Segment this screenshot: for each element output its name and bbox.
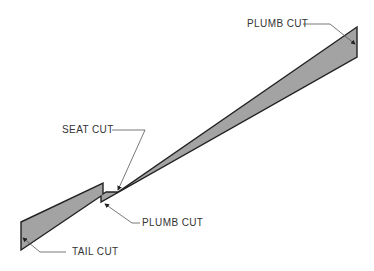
label-tail-cut: TAIL CUT <box>72 247 119 257</box>
label-plumb-cut-top: PLUMB CUT <box>247 19 308 29</box>
leader-plumb-cut-notch <box>105 204 140 223</box>
label-seat-cut: SEAT CUT <box>62 125 114 135</box>
label-plumb-cut-notch: PLUMB CUT <box>142 218 203 228</box>
leader-seat-cut <box>112 130 145 190</box>
rafter-diagram <box>0 0 374 271</box>
